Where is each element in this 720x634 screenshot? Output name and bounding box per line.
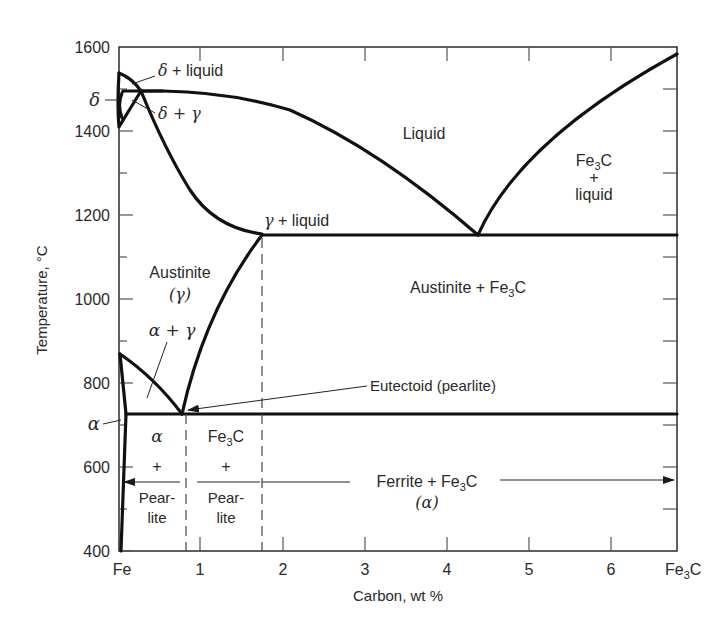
y-axis-ticks-right [663,89,677,509]
delta-side-label: δ [89,89,100,110]
y-tick-1200: 1200 [74,207,110,224]
region-ferrite-alpha: (α) [415,493,438,512]
eutectoid-arrow [188,386,367,410]
region-austinite-gamma: (γ) [169,285,191,304]
region-alpha-pear: Pear- [139,489,176,506]
x-tick-4: 4 [443,561,452,578]
region-fe3c-liquid-plus: + [589,169,598,186]
y-tick-600: 600 [83,459,110,476]
region-alpha-lite: lite [147,509,166,526]
x-tick-labels: Fe 1 2 3 4 5 6 [113,561,616,578]
region-fe3c-pearlite-plus: + [221,458,230,475]
region-fe3c-pearlite-lite: lite [216,509,235,526]
region-delta-gamma: δ + γ [158,104,201,123]
y-axis-title: Temperature, °C [33,245,50,355]
region-alpha-gamma: α + γ [149,320,197,340]
leader-delta-liquid [132,76,155,84]
region-austinite-fe3c: Austinite + Fe3C [410,279,526,299]
label-eutectoid: Eutectoid (pearlite) [370,377,496,394]
phase-diagram-chart: 400 600 800 1000 1200 1400 1600 δ α Temp… [0,0,720,634]
alpha-side-label: α [88,413,100,434]
y-tick-1600: 1600 [74,39,110,56]
region-ferrite-fe3c: Ferrite + Fe3C [377,473,478,493]
x-tick-6: 6 [607,561,616,578]
region-fe3c-pearlite-pear: Pear- [208,489,245,506]
x-tick-1: 1 [196,561,205,578]
leader-alpha-gamma [147,342,167,398]
region-fe3c-liquid-liquid: liquid [575,186,612,203]
y-tick-labels: 400 600 800 1000 1200 1400 1600 [74,39,110,560]
leader-delta-gamma [132,100,155,113]
x-axis-title: Carbon, wt % [353,587,443,604]
y-tick-1400: 1400 [74,123,110,140]
region-austinite: Austinite [149,264,210,281]
a3-line [120,354,182,414]
x-tick-fe: Fe [113,561,132,578]
x-tick-2: 2 [279,561,288,578]
region-gamma-liquid: γ + liquid [264,211,329,230]
region-liquid: Liquid [403,125,446,142]
x-tick-3: 3 [361,561,370,578]
y-tick-400: 400 [83,543,110,560]
x-tick-fe3c: Fe3C [665,561,701,581]
y-tick-1000: 1000 [74,291,110,308]
delta-inner-line [120,93,123,118]
region-fe3c-pearlite-fe3c: Fe3C [208,428,244,448]
region-alpha: α [151,426,163,446]
x-tick-5: 5 [525,561,534,578]
y-tick-800: 800 [83,375,110,392]
liquidus-fe3c-line [478,54,677,235]
region-alpha-plus: + [152,458,161,475]
region-delta-liquid: δ + liquid [158,61,223,80]
